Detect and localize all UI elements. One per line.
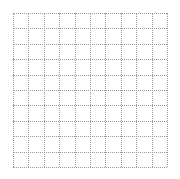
grid-horizontal-line — [13, 167, 167, 168]
grid-vertical-line — [136, 13, 137, 167]
grid-vertical-line — [28, 13, 29, 167]
grid-vertical-line — [59, 13, 60, 167]
grid-vertical-line — [105, 13, 106, 167]
dotted-grid — [13, 13, 167, 167]
grid-vertical-line — [167, 13, 168, 167]
grid-vertical-line — [13, 13, 14, 167]
grid-vertical-line — [90, 13, 91, 167]
grid-vertical-line — [152, 13, 153, 167]
grid-vertical-line — [121, 13, 122, 167]
canvas — [0, 0, 180, 179]
grid-vertical-line — [75, 13, 76, 167]
grid-vertical-line — [44, 13, 45, 167]
